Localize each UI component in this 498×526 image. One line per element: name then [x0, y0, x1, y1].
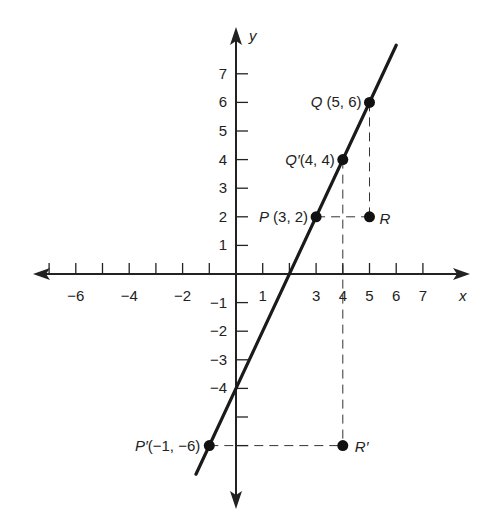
point-label: P (3, 2) [259, 208, 308, 225]
x-tick-label: −4 [121, 287, 138, 304]
y-tick-label: 6 [219, 93, 227, 110]
point-q-prime [337, 154, 348, 165]
point-label: Q (5, 6) [311, 93, 362, 110]
x-tick-label: 1 [259, 287, 267, 304]
y-tick-label: 4 [219, 151, 227, 168]
y-tick-label: −4 [210, 379, 227, 396]
y-tick-label: 2 [219, 208, 227, 225]
axes [33, 27, 470, 509]
point-label: P′(−1, −6) [135, 437, 200, 454]
coordinate-plane-svg: −6−4−21345677654321−1−2−3−4 Q (5, 6)Q′(4… [0, 0, 498, 526]
y-axis-label: y [248, 27, 258, 44]
y-tick-label: 1 [219, 236, 227, 253]
point-p-prime [204, 440, 215, 451]
point-label: R′ [355, 438, 370, 455]
y-tick-label: 7 [219, 65, 227, 82]
point-label: Q′(4, 4) [285, 151, 335, 168]
x-tick-label: 7 [419, 287, 427, 304]
point-q [364, 97, 375, 108]
x-tick-label: 3 [312, 287, 320, 304]
x-axis-label: x [458, 287, 467, 304]
x-tick-label: −6 [67, 287, 84, 304]
y-tick-label: 5 [219, 122, 227, 139]
x-tick-label: 5 [365, 287, 373, 304]
point-label: R [380, 210, 391, 227]
y-tick-label: 3 [219, 179, 227, 196]
point-r-prime [337, 440, 348, 451]
x-tick-label: −2 [174, 287, 191, 304]
x-tick-label: 4 [339, 287, 347, 304]
axis-ticks: −6−4−21345677654321−1−2−3−4 [49, 65, 427, 446]
point-p [311, 211, 322, 222]
x-tick-label: 6 [392, 287, 400, 304]
y-tick-label: −2 [210, 322, 227, 339]
y-tick-label: −1 [210, 294, 227, 311]
y-tick-label: −3 [210, 351, 227, 368]
point-r [364, 211, 375, 222]
coordinate-plane-figure: −6−4−21345677654321−1−2−3−4 Q (5, 6)Q′(4… [0, 0, 498, 526]
